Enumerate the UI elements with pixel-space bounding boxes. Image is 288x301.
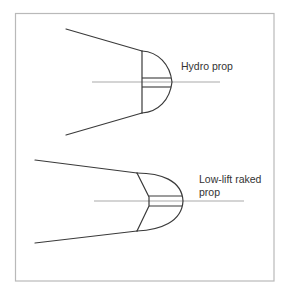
hydro-prop-upper-edge: [66, 29, 142, 51]
raked-prop-label-line-2: prop: [199, 186, 220, 198]
prop-comparison-diagram: Hydro prop Low-lift raked prop: [0, 0, 288, 301]
raked-prop-lower-edge: [35, 231, 137, 243]
hydro-prop-drawing: Hydro prop: [66, 29, 233, 135]
raked-prop-blade-face: [137, 173, 149, 231]
hydro-prop-label: Hydro prop: [181, 60, 233, 72]
low-lift-raked-prop-drawing: Low-lift raked prop: [35, 160, 262, 243]
raked-prop-upper-edge: [35, 160, 137, 173]
hydro-prop-lower-edge: [66, 113, 142, 135]
raked-prop-label-line-1: Low-lift raked: [199, 173, 262, 185]
raked-prop-nose-arc: [137, 173, 183, 231]
